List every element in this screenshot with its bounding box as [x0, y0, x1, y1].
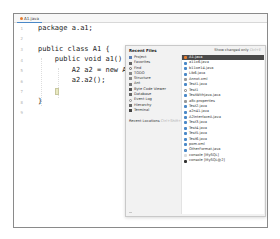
line-number: 2: [17, 36, 23, 41]
text-file-icon: [184, 89, 187, 92]
recent-locations-link[interactable]: Recent Locations Ctrl+Shift+E: [129, 119, 184, 123]
file-name: A2InterfaceA.java: [189, 115, 221, 119]
tool-window-label: Database: [134, 92, 151, 96]
line-number-gutter: 1 2 3 4 5 6 7 8 9: [14, 24, 26, 227]
file-name: Test1: [189, 88, 198, 92]
search-icon: [129, 67, 132, 70]
tool-window-label: Find: [134, 66, 141, 70]
file-name: a8c.properties: [189, 99, 215, 103]
hierarchy-icon: [129, 104, 132, 107]
editor-tab-label: A1.java: [24, 16, 39, 21]
structure-icon: [129, 77, 132, 80]
tool-window-label: Hierarchy: [134, 103, 151, 107]
java-file-icon: [184, 67, 187, 70]
file-name: TestWithjava.java: [189, 93, 220, 97]
line-number: 6: [17, 79, 23, 84]
star-icon: [129, 62, 132, 65]
recent-files-list[interactable]: A1.java a11x6.java b11oe14.java Lib6.jav…: [181, 55, 264, 214]
java-file-icon: [184, 121, 187, 124]
tool-window-label: Byte Code Viewer: [134, 87, 166, 91]
tool-window-label: Structure: [134, 76, 151, 80]
show-changed-only-label: Show changed only: [214, 48, 248, 52]
properties-file-icon: [184, 100, 187, 103]
code-text: public void a1(): [38, 55, 127, 63]
show-changed-only-toggle[interactable]: Show changed only Ctrl+E: [214, 48, 261, 52]
file-name: a2n41.java: [189, 109, 209, 113]
popup-resize-handle[interactable]: [129, 212, 132, 213]
tool-window-label: TODO: [134, 71, 145, 75]
file-name: Test5.java: [189, 131, 207, 135]
tool-window-label: Terminal: [134, 108, 149, 112]
line-number: 3: [17, 47, 23, 52]
maven-file-icon: [184, 143, 187, 146]
terminal-icon: [129, 109, 132, 112]
ant-icon: [129, 83, 132, 86]
tool-window-label: Project: [134, 55, 146, 59]
line-number: 8: [17, 100, 23, 105]
java-file-icon: [184, 127, 187, 130]
todo-icon: [129, 72, 132, 75]
code-text: [38, 87, 55, 95]
line-number: 1: [17, 26, 23, 31]
code-line: package a.a1;: [38, 24, 93, 33]
file-name: Annot.xml: [189, 77, 207, 81]
database-icon: [129, 93, 132, 96]
tool-window-list: Project Favorites Find TODO Structure An…: [128, 55, 180, 113]
file-name: Test1.java: [189, 82, 207, 86]
file-name: console [MySQL@2]: [189, 158, 225, 162]
event-log-icon: [129, 99, 132, 102]
line-number: 4: [17, 58, 23, 63]
java-file-icon: [184, 56, 187, 59]
file-name: Test4.java: [189, 126, 207, 130]
file-name: Test3.java: [189, 120, 207, 124]
tool-window-label: Event Log: [134, 97, 152, 101]
java-file-icon: [184, 149, 187, 152]
code-line: public void a1(): [38, 55, 131, 64]
popup-title: Recent Files: [129, 48, 157, 53]
java-file-icon: [184, 116, 187, 119]
editor-tab-bar: A1.java: [14, 14, 267, 23]
file-name: a11x6.java: [189, 60, 209, 64]
java-file-icon: [184, 94, 187, 97]
code-line: a2.a2();: [38, 76, 105, 85]
java-file-icon: [184, 111, 187, 114]
brace-highlight: [55, 88, 59, 95]
xml-file-icon: [184, 78, 187, 81]
code-line: [38, 87, 59, 96]
recent-file-item[interactable]: console [MySQL@2]: [182, 158, 264, 163]
recent-locations-label: Recent Locations: [129, 119, 160, 123]
file-name: Test6.java: [189, 137, 207, 141]
java-file-icon: [184, 132, 187, 135]
console-icon: [184, 154, 187, 157]
java-file-icon: [184, 62, 187, 65]
code-line: }: [38, 97, 42, 106]
file-name: OtherFormat.java: [189, 147, 221, 151]
recent-files-popup: Recent Files Show changed only Ctrl+E Pr…: [125, 45, 266, 217]
file-name: Lib6.java: [189, 71, 205, 75]
java-file-icon: [184, 138, 187, 141]
project-icon: [129, 56, 132, 59]
editor-tab[interactable]: A1.java: [17, 15, 42, 23]
show-changed-only-shortcut: Ctrl+E: [250, 48, 261, 52]
file-name: Test2.java: [189, 104, 207, 108]
file-name: console [MySQL]: [189, 153, 219, 157]
line-number: 9: [17, 110, 23, 115]
file-name: pom.xml: [189, 142, 205, 146]
file-name: A1.java: [189, 55, 202, 59]
code-line: public class A1 {: [38, 45, 110, 54]
tool-window-terminal[interactable]: Terminal: [128, 108, 180, 113]
tool-window-label: Ant: [134, 81, 140, 85]
java-file-icon: [184, 73, 187, 76]
line-number: 7: [17, 89, 23, 94]
bytecode-icon: [129, 88, 132, 91]
tool-window-label: Favorites: [134, 60, 150, 64]
java-file-icon: [184, 83, 187, 86]
file-name: b11oe14.java: [189, 66, 214, 70]
java-file-icon: [20, 17, 23, 20]
console-icon: [184, 160, 187, 163]
line-number: 5: [17, 68, 23, 73]
java-file-icon: [184, 105, 187, 108]
